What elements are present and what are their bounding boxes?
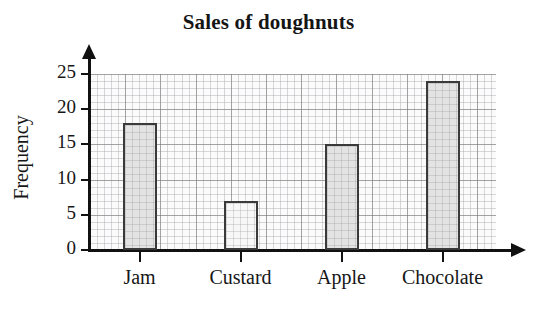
bar-custard [224, 201, 258, 250]
y-tick-label: 20 [42, 96, 76, 118]
x-tick-label-chocolate: Chocolate [402, 266, 483, 289]
y-tick-label: 25 [42, 61, 76, 83]
x-tick-mark [442, 252, 444, 262]
bar-apple [325, 144, 359, 250]
y-tick-label: 5 [42, 202, 76, 224]
y-axis-arrow-icon [82, 44, 96, 59]
y-tick-label: 10 [42, 167, 76, 189]
bar-jam [123, 123, 157, 250]
x-tick-mark [240, 252, 242, 262]
x-tick-label-jam: Jam [123, 266, 155, 289]
bar-chocolate [426, 81, 460, 250]
chart-title: Sales of doughnuts [0, 10, 537, 35]
x-tick-label-custard: Custard [209, 266, 271, 289]
y-tick-mark [81, 143, 90, 145]
y-axis-line [88, 58, 91, 252]
y-tick-label: 0 [42, 237, 76, 259]
y-axis-label: Frequency [10, 73, 33, 243]
x-tick-mark [341, 252, 343, 262]
x-axis-arrow-icon [511, 243, 526, 257]
y-tick-mark [81, 108, 90, 110]
bar-chart: Sales of doughnuts Frequency 0510152025 … [0, 0, 537, 316]
y-tick-mark [81, 249, 90, 251]
x-tick-mark [139, 252, 141, 262]
y-axis-label-container: Frequency [4, 68, 38, 258]
x-tick-label-apple: Apple [317, 266, 366, 289]
y-tick-label: 15 [42, 131, 76, 153]
y-tick-mark [81, 179, 90, 181]
y-tick-mark [81, 73, 90, 75]
y-tick-mark [81, 214, 90, 216]
